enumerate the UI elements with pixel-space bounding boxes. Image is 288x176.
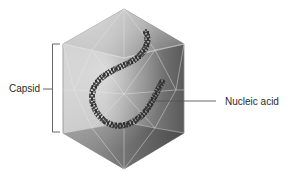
virus-diagram: Capsid Nucleic acid [0,0,288,176]
capsid-bracket [43,44,60,132]
virus-illustration [0,0,288,176]
capsid-label: Capsid [9,83,40,95]
nucleic-acid-label: Nucleic acid [225,96,279,108]
capsid [63,9,184,169]
